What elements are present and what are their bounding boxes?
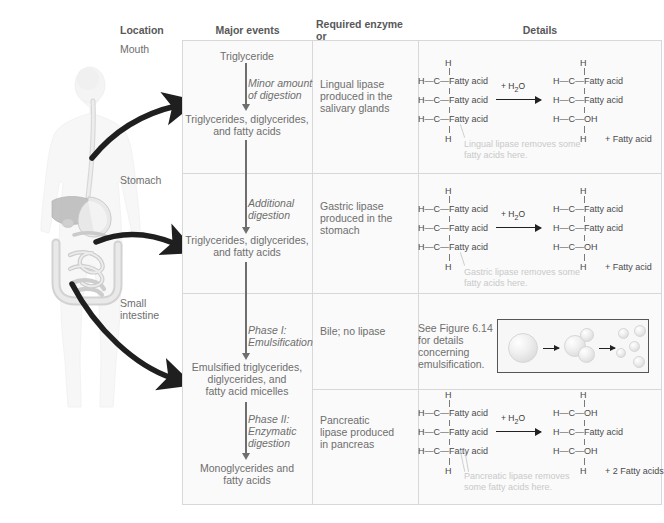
substituent-2: Fatty acid (584, 95, 623, 105)
substituent-2: Fatty acid (584, 427, 623, 437)
substituent-2: Fatty acid (449, 95, 488, 105)
atom-c: C (569, 223, 576, 233)
atom-h: H (418, 114, 425, 124)
see-figure-line1: See Figure 6.14 (418, 322, 494, 334)
bond (449, 439, 450, 445)
substituent-1: Fatty acid (584, 204, 623, 214)
atom-h: H (553, 408, 560, 418)
row-divider-stomach-intestine (183, 293, 661, 294)
caption-lingual-line2: fatty acids here. (464, 150, 614, 161)
atom-c: C (569, 204, 576, 214)
caption-gastric-line2: fatty acids here. (464, 278, 614, 289)
event-minor-digestion: Minor amount of digestion (248, 77, 318, 101)
location-label-small-intestine-line2: intestine (120, 309, 176, 321)
event-tg-dg-fa-2-line2: and fatty acids (183, 246, 311, 258)
emulsification-arrow-2 (599, 348, 615, 349)
bond (449, 400, 450, 407)
substituent-3: Fatty acid (449, 114, 488, 124)
substituent-2: Fatty acid (584, 223, 623, 233)
chain-row-2: H—C—Fatty acid (553, 224, 623, 233)
event-phase-1: Phase I: Emulsification (248, 324, 322, 348)
atom-h: H (418, 204, 425, 214)
atom-h: H (418, 242, 425, 252)
reaction-arrow (496, 227, 541, 228)
atom-h: H (553, 223, 560, 233)
emulsification-illustration (497, 319, 649, 373)
atom-h-top: H (580, 186, 587, 196)
reaction-lingual: H H—C—Fatty acid H—C—Fatty acid H—C—Fatt… (418, 58, 662, 138)
atom-c: C (569, 446, 576, 456)
atom-c: C (434, 204, 441, 214)
atom-h: H (553, 427, 560, 437)
column-header-major-events: Major events (183, 25, 312, 37)
event-additional-digestion-line1: Additional (248, 197, 318, 209)
emulsification-arrow-1 (543, 348, 559, 349)
chain-row-1: H—C—OH (553, 409, 598, 418)
event-tg-dg-fa-2-line1: Triglycerides, diglycerides, (183, 234, 311, 246)
substituent-3: OH (584, 446, 598, 456)
bond (584, 254, 585, 261)
fat-droplet-1 (618, 328, 629, 339)
bond (449, 107, 450, 113)
event-additional-digestion: Additional digestion (248, 197, 318, 221)
caption-leader (460, 124, 465, 138)
bond (449, 196, 450, 203)
chain-row-3: H—C—OH (553, 447, 598, 456)
atom-c: C (434, 95, 441, 105)
reaction-gastric: H H—C—Fatty acid H—C—Fatty acid H—C—Fatt… (418, 186, 662, 266)
atom-c: C (569, 408, 576, 418)
reaction-pancreatic: H H—C—Fatty acid H—C—Fatty acid H—C—Fatt… (418, 390, 662, 470)
atom-h-top: H (580, 58, 587, 68)
substituent-1: OH (584, 408, 598, 418)
bond (584, 68, 585, 75)
fat-globule-large (508, 333, 538, 363)
chain-row-2: H—C—Fatty acid (553, 96, 623, 105)
event-emulsified-line1: Emulsified triglycerides, (183, 361, 311, 373)
atom-h-bottom: H (445, 262, 452, 272)
enzyme-bile-line1: Bile; no lipase (320, 325, 412, 337)
row-divider-mouth-stomach (183, 173, 661, 174)
location-label-mouth: Mouth (120, 43, 149, 55)
enzyme-pancreatic-lipase-line1: Pancreatic (320, 414, 412, 426)
atom-h: H (418, 223, 425, 233)
fat-droplet-4 (616, 348, 626, 358)
substituent-1: Fatty acid (449, 408, 488, 418)
fat-droplet-2 (634, 325, 646, 337)
water-label: + H2O (501, 413, 525, 426)
see-figure-line4: emulsification. (418, 358, 494, 370)
caption-pancreatic-line1: Pancreatic lipase removes (464, 471, 614, 482)
event-tg-dg-fa-1-line2: and fatty acids (183, 125, 311, 137)
fat-droplet-3 (629, 341, 640, 352)
fat-globule-cluster-c (578, 346, 595, 363)
bond (584, 439, 585, 445)
atom-c: C (434, 427, 441, 437)
event-tg-dg-fa-1-line1: Triglycerides, diglycerides, (183, 113, 311, 125)
atom-h: H (553, 95, 560, 105)
atom-h: H (553, 204, 560, 214)
event-tg-dg-fa-1: Triglycerides, diglycerides, and fatty a… (183, 113, 311, 137)
flow-arrow-3 (245, 262, 247, 354)
event-phase-1-line2: Emulsification (248, 336, 322, 348)
chain-row-2: H—C—Fatty acid (418, 96, 488, 105)
atom-c: C (434, 76, 441, 86)
pointer-arrows (0, 30, 200, 410)
chain-row-1: H—C—Fatty acid (418, 77, 488, 86)
event-triglyceride: Triglyceride (183, 50, 311, 62)
event-monoglycerides: Monoglycerides and fatty acids (183, 462, 311, 486)
chain-row-3: H—C—OH (553, 243, 598, 252)
atom-c: C (569, 95, 576, 105)
event-emulsified-line3: fatty acid micelles (183, 385, 311, 397)
caption-gastric-line1: Gastric lipase removes some (464, 267, 614, 278)
enzyme-bile: Bile; no lipase (320, 325, 412, 337)
flow-arrow-1 (245, 63, 247, 105)
substituent-1: Fatty acid (584, 76, 623, 86)
see-figure-line3: concerning (418, 346, 494, 358)
enzyme-lingual-lipase: Lingual lipase produced in the salivary … (320, 78, 412, 114)
substituent-1: Fatty acid (449, 204, 488, 214)
chain-row-3: H—C—OH (553, 115, 598, 124)
event-emulsified-line2: diglycerides, and (183, 373, 311, 385)
enzyme-pancreatic-lipase-line2: lipase produced (320, 426, 412, 438)
column-header-location: Location (120, 25, 180, 37)
bond (584, 458, 585, 465)
chain-row-1: H—C—Fatty acid (553, 205, 623, 214)
